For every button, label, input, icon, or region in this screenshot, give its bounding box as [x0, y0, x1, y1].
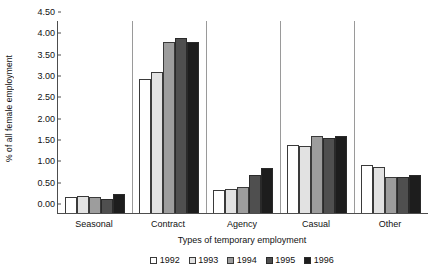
bar	[237, 187, 249, 213]
x-axis-tick-labels: SeasonalContractAgencyCasualOther	[57, 216, 427, 232]
y-axis-tick: 3.00	[37, 72, 58, 81]
legend-swatch-icon	[304, 257, 311, 264]
y-axis-tick: 0.50	[37, 178, 58, 187]
bar	[397, 177, 409, 213]
bar	[89, 197, 101, 213]
bar	[225, 189, 237, 213]
x-axis-tick-label: Seasonal	[57, 216, 131, 232]
bar	[311, 136, 323, 213]
y-axis-tick: 1.50	[37, 136, 58, 145]
bar-chart: % of all female employment 0.000.501.001…	[0, 0, 433, 274]
bar	[213, 190, 225, 213]
bar-group-bars	[139, 21, 199, 213]
bar-group	[58, 21, 132, 213]
legend-item[interactable]: 1996	[304, 256, 334, 265]
bar	[139, 79, 151, 213]
bar	[299, 146, 311, 213]
chart-legend: 19921993199419951996	[57, 256, 427, 265]
x-axis-tick-label: Agency	[205, 216, 279, 232]
y-axis-tick-label: 2.50	[37, 93, 58, 102]
y-axis-tick-label: 4.50	[37, 8, 58, 17]
bar	[323, 138, 335, 213]
bar	[65, 197, 77, 213]
y-axis-tick-label: 4.00	[37, 29, 58, 38]
y-axis-tick-label: 1.00	[37, 157, 58, 166]
bar-groups	[58, 21, 428, 213]
y-axis-tick-mark	[58, 12, 61, 13]
y-axis-title-text: % of all female employment	[4, 55, 14, 162]
bar	[175, 38, 187, 213]
y-axis-tick-label: 3.00	[37, 72, 58, 81]
y-axis-tick-label: 1.50	[37, 136, 58, 145]
bar	[261, 168, 273, 213]
bar	[249, 175, 261, 213]
legend-swatch-icon	[189, 257, 196, 264]
y-axis-tick-label: 2.00	[37, 114, 58, 123]
y-axis-tick-label: 0.00	[37, 200, 58, 209]
bar	[409, 175, 421, 213]
bar-group-bars	[213, 21, 273, 213]
bar	[101, 199, 113, 213]
legend-item[interactable]: 1993	[189, 256, 219, 265]
bar	[77, 196, 89, 213]
bar	[163, 42, 175, 213]
legend-swatch-icon	[266, 257, 273, 264]
legend-item[interactable]: 1995	[266, 256, 296, 265]
legend-item-label: 1996	[314, 256, 334, 265]
y-axis-tick: 4.00	[37, 29, 58, 38]
y-axis-tick: 0.00	[37, 200, 58, 209]
bar-group	[280, 21, 354, 213]
x-axis-tick-label: Casual	[279, 216, 353, 232]
bar-group	[132, 21, 206, 213]
bar-group-bars	[65, 21, 125, 213]
x-axis-tick-label: Other	[353, 216, 427, 232]
bar	[335, 136, 347, 213]
bar	[385, 177, 397, 213]
legend-item-label: 1995	[275, 256, 295, 265]
bar-group	[206, 21, 280, 213]
y-axis-tick-label: 3.50	[37, 50, 58, 59]
bar	[361, 165, 373, 213]
plot-area: 0.000.501.001.502.002.503.003.504.004.50	[57, 21, 428, 214]
x-axis-tick-label: Contract	[131, 216, 205, 232]
y-axis-tick: 3.50	[37, 50, 58, 59]
bar	[151, 72, 163, 213]
legend-item-label: 1992	[160, 256, 180, 265]
bar	[113, 194, 125, 213]
y-axis-tick: 2.50	[37, 93, 58, 102]
bar-group-bars	[361, 21, 421, 213]
bar-group	[354, 21, 428, 213]
legend-item[interactable]: 1994	[227, 256, 257, 265]
legend-item-label: 1994	[237, 256, 257, 265]
legend-swatch-icon	[227, 257, 234, 264]
legend-item-label: 1993	[198, 256, 218, 265]
y-axis-tick: 4.50	[37, 8, 58, 17]
bar	[187, 42, 199, 213]
bar	[373, 167, 385, 213]
bar	[287, 145, 299, 213]
y-axis-tick: 2.00	[37, 114, 58, 123]
legend-swatch-icon	[150, 257, 157, 264]
y-axis-tick-label: 0.50	[37, 178, 58, 187]
y-axis-title: % of all female employment	[0, 0, 18, 218]
x-axis-title: Types of temporary employment	[57, 235, 427, 245]
y-axis-tick: 1.00	[37, 157, 58, 166]
bar-group-bars	[287, 21, 347, 213]
legend-item[interactable]: 1992	[150, 256, 180, 265]
